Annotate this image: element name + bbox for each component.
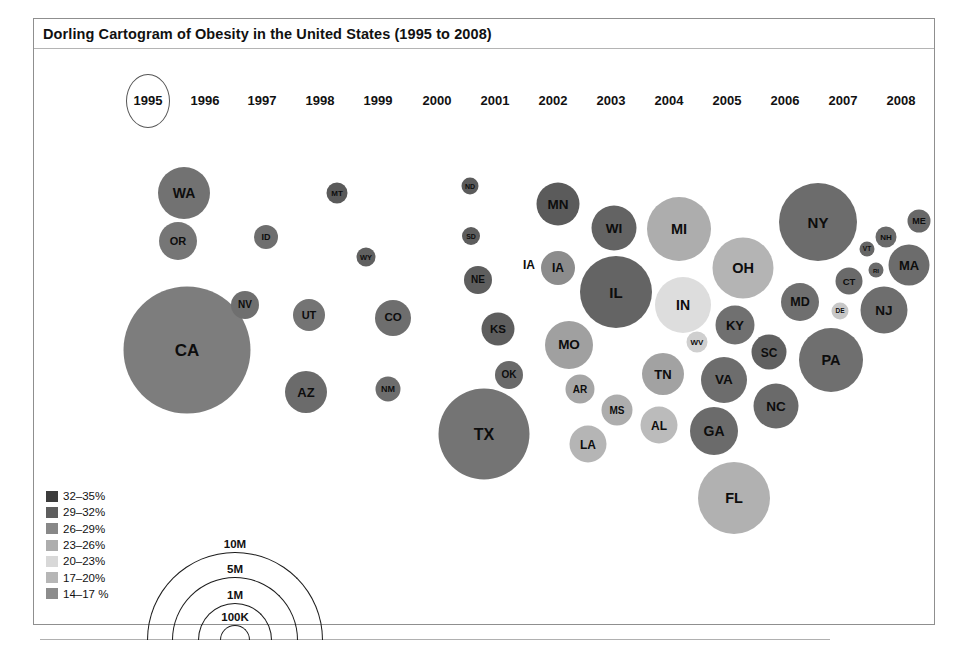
state-bubble-nv[interactable]: NV bbox=[231, 291, 259, 319]
state-label-id: ID bbox=[262, 233, 271, 242]
state-bubble-wy[interactable]: WY bbox=[357, 248, 376, 267]
legend-label: 14–17 % bbox=[63, 588, 108, 600]
state-bubble-or[interactable]: OR bbox=[159, 222, 197, 260]
state-label-nv: NV bbox=[238, 300, 252, 310]
state-label-wi: WI bbox=[606, 221, 623, 235]
state-label-nm: NM bbox=[381, 385, 395, 394]
state-bubble-wi[interactable]: WI bbox=[592, 206, 637, 251]
state-label-ia: IA bbox=[552, 262, 564, 274]
state-bubble-mo[interactable]: MO bbox=[545, 321, 593, 369]
state-label-me: ME bbox=[912, 217, 926, 226]
state-label-ok: OK bbox=[502, 370, 517, 380]
cartogram-page: Dorling Cartogram of Obesity in the Unit… bbox=[0, 0, 957, 647]
state-label-mo: MO bbox=[558, 338, 580, 352]
legend-swatch-icon bbox=[46, 572, 58, 583]
state-bubble-in[interactable]: IN bbox=[655, 277, 711, 333]
state-bubble-mi[interactable]: MI bbox=[647, 197, 711, 261]
size-legend-label-10m: 10M bbox=[224, 538, 246, 550]
state-label-in: IN bbox=[676, 298, 690, 312]
state-label-ny: NY bbox=[808, 215, 829, 230]
state-bubble-nc[interactable]: NC bbox=[754, 384, 799, 429]
legend-swatch-icon bbox=[46, 588, 58, 599]
state-bubble-nd[interactable]: ND bbox=[462, 178, 479, 195]
state-label-co: CO bbox=[384, 312, 401, 324]
state-bubble-az[interactable]: AZ bbox=[285, 371, 327, 413]
state-bubble-ri[interactable]: RI bbox=[869, 263, 884, 278]
state-label-wv: WV bbox=[691, 338, 704, 346]
legend-swatch-icon bbox=[46, 491, 58, 502]
state-bubble-ga[interactable]: GA bbox=[690, 407, 738, 455]
state-bubble-il[interactable]: IL bbox=[580, 256, 652, 328]
state-bubble-va[interactable]: VA bbox=[701, 357, 747, 403]
state-bubble-md[interactable]: MD bbox=[781, 283, 819, 321]
state-bubble-nm[interactable]: NM bbox=[376, 377, 401, 402]
state-bubble-fl[interactable]: FL bbox=[698, 462, 770, 534]
state-label-ma: MA bbox=[899, 259, 919, 272]
state-bubble-ne[interactable]: NE bbox=[464, 266, 492, 294]
legend-swatch-icon bbox=[46, 556, 58, 567]
legend-label: 32–35% bbox=[63, 490, 105, 502]
size-legend-label-100k: 100K bbox=[221, 611, 249, 623]
state-bubble-co[interactable]: CO bbox=[375, 300, 411, 336]
year-1995[interactable]: 1995 bbox=[134, 92, 163, 110]
state-label-oh: OH bbox=[732, 261, 754, 276]
state-label-ne: NE bbox=[471, 275, 485, 285]
legend-swatch-icon bbox=[46, 523, 58, 534]
population-size-legend: 10M5M1M100K bbox=[145, 518, 325, 640]
state-label-mt: MT bbox=[331, 189, 343, 197]
state-bubble-ma[interactable]: MA bbox=[889, 245, 930, 286]
legend-label: 29–32% bbox=[63, 506, 105, 518]
state-label-wa: WA bbox=[173, 186, 196, 200]
legend-label: 23–26% bbox=[63, 539, 105, 551]
state-bubble-nj[interactable]: NJ bbox=[861, 287, 908, 334]
state-bubble-de[interactable]: DE bbox=[832, 303, 849, 320]
state-label-sd: SD bbox=[466, 233, 476, 240]
state-bubble-ny[interactable]: NY bbox=[779, 183, 857, 261]
state-bubble-wv[interactable]: WV bbox=[687, 332, 708, 353]
state-bubble-ky[interactable]: KY bbox=[716, 306, 755, 345]
state-bubble-ok[interactable]: OK bbox=[495, 361, 523, 389]
state-bubble-id[interactable]: ID bbox=[254, 225, 278, 249]
state-bubble-vt[interactable]: VT bbox=[860, 242, 875, 257]
state-label-al: AL bbox=[651, 419, 667, 431]
state-bubble-tn[interactable]: TN bbox=[642, 353, 684, 395]
state-label-nd: ND bbox=[465, 183, 475, 190]
state-bubble-me[interactable]: ME bbox=[908, 210, 931, 233]
state-bubble-mn[interactable]: MN bbox=[537, 183, 580, 226]
state-label-fl: FL bbox=[725, 491, 743, 506]
state-label-ar: AR bbox=[573, 384, 587, 394]
state-label-pa: PA bbox=[821, 353, 840, 368]
state-label-tx: TX bbox=[474, 426, 494, 442]
state-bubble-nh[interactable]: NH bbox=[876, 227, 897, 248]
state-label-nh: NH bbox=[880, 233, 892, 241]
state-bubble-ia[interactable]: IA bbox=[541, 251, 575, 285]
state-bubble-oh[interactable]: OH bbox=[713, 238, 774, 299]
state-bubble-tx[interactable]: TX bbox=[439, 389, 530, 480]
state-label-il: IL bbox=[609, 285, 622, 300]
state-label-ri: RI bbox=[873, 267, 879, 273]
state-bubble-ct[interactable]: CT bbox=[836, 268, 863, 295]
state-bubble-mt[interactable]: MT bbox=[327, 183, 348, 204]
state-bubble-pa[interactable]: PA bbox=[799, 328, 863, 392]
state-label-md: MD bbox=[790, 296, 809, 309]
legend-row: 32–35% bbox=[46, 488, 166, 504]
size-legend-label-5m: 5M bbox=[227, 563, 243, 575]
state-label-mi: MI bbox=[671, 222, 687, 237]
state-bubble-ut[interactable]: UT bbox=[293, 299, 325, 331]
state-label-tn: TN bbox=[654, 368, 671, 381]
state-bubble-ar[interactable]: AR bbox=[566, 375, 595, 404]
state-label-nj: NJ bbox=[875, 303, 892, 317]
state-label-vt: VT bbox=[863, 246, 871, 253]
legend-swatch-icon bbox=[46, 540, 58, 551]
state-bubble-ks[interactable]: KS bbox=[482, 313, 515, 346]
state-bubble-ms[interactable]: MS bbox=[602, 395, 633, 426]
state-label-va: VA bbox=[715, 373, 733, 387]
state-bubble-la[interactable]: LA bbox=[570, 426, 607, 463]
state-label-or: OR bbox=[170, 236, 187, 247]
state-bubble-wa[interactable]: WA bbox=[158, 167, 210, 219]
state-label-nc: NC bbox=[766, 399, 786, 413]
state-bubble-sc[interactable]: SC bbox=[752, 335, 787, 370]
state-label-sc: SC bbox=[761, 346, 778, 358]
state-bubble-al[interactable]: AL bbox=[641, 407, 678, 444]
state-bubble-sd[interactable]: SD bbox=[462, 227, 480, 245]
